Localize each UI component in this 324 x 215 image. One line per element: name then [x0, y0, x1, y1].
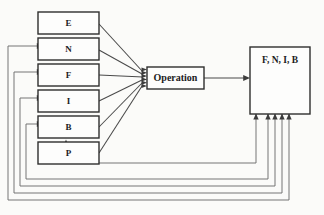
- input-box-b-label: B: [65, 122, 71, 132]
- input-box-b[interactable]: B: [38, 116, 99, 138]
- operation-to-output-group: [204, 75, 250, 81]
- input-box-e-label: E: [65, 18, 71, 28]
- operation-input-arrowhead-2: [142, 71, 148, 75]
- diagram-canvas: E N F I B P Operation: [0, 0, 324, 215]
- output-box[interactable]: F, N, I, B: [250, 47, 310, 114]
- input-box-p[interactable]: P: [38, 142, 99, 164]
- input-box-n[interactable]: N: [38, 38, 99, 60]
- input-box-i-label: I: [67, 96, 71, 106]
- edge-p-to-operation: [99, 85, 143, 154]
- output-box-label: F, N, I, B: [262, 55, 299, 65]
- output-input-arrowhead: [243, 75, 250, 81]
- input-to-operation-group: [99, 24, 147, 153]
- input-box-p-label: P: [66, 148, 72, 158]
- input-box-e[interactable]: E: [38, 12, 99, 34]
- edge-i-to-operation: [99, 80, 143, 102]
- input-box-f-label: F: [66, 70, 72, 80]
- operation-input-arrowhead-3: [142, 74, 148, 78]
- operation-box-label: Operation: [154, 72, 198, 83]
- operation-input-arrowhead-4: [142, 77, 148, 81]
- edge-e-to-operation: [99, 24, 143, 72]
- operation-input-arrowhead-1: [142, 67, 148, 71]
- operation-input-arrowhead-5: [142, 81, 148, 85]
- input-box-f[interactable]: F: [38, 64, 99, 86]
- diagram-svg: E N F I B P Operation: [0, 0, 324, 215]
- input-box-n-label: N: [65, 44, 72, 54]
- edge-f-to-operation: [99, 75, 143, 77]
- operation-input-arrowhead-6: [142, 84, 148, 88]
- input-box-i[interactable]: I: [38, 90, 99, 112]
- edge-b-to-operation: [99, 82, 143, 127]
- operation-box[interactable]: Operation: [147, 67, 204, 89]
- edge-n-to-operation: [99, 50, 143, 75]
